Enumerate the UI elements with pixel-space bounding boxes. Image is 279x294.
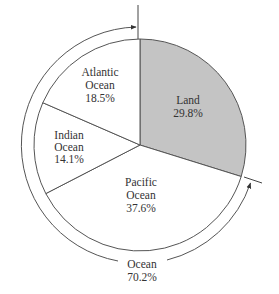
label-ocean-name: Ocean [127,258,157,270]
label-indian: Indian Ocean 14.1% [54,129,84,165]
label-atlantic-value: 18.5% [85,92,115,104]
label-land-name: Land [176,94,200,106]
label-pacific-name: Pacific [125,176,157,188]
tick-right [244,177,262,183]
label-pacific: Pacific Ocean 37.6% [125,176,157,214]
label-atlantic-name: Atlantic [81,66,118,78]
label-indian-value: 14.1% [54,153,84,165]
label-pacific-name2: Ocean [126,189,156,201]
label-indian-name: Indian [54,129,84,141]
label-land: Land 29.8% [173,94,203,119]
pie-chart: Land 29.8% Atlantic Ocean 18.5% Indian O… [0,0,279,294]
label-ocean-total: Ocean 70.2% [127,258,157,283]
label-atlantic-name2: Ocean [85,79,115,91]
label-ocean-value: 70.2% [127,271,157,283]
label-indian-name2: Ocean [54,141,84,153]
label-land-value: 29.8% [173,107,203,119]
label-atlantic: Atlantic Ocean 18.5% [81,66,118,104]
label-pacific-value: 37.6% [126,202,156,214]
